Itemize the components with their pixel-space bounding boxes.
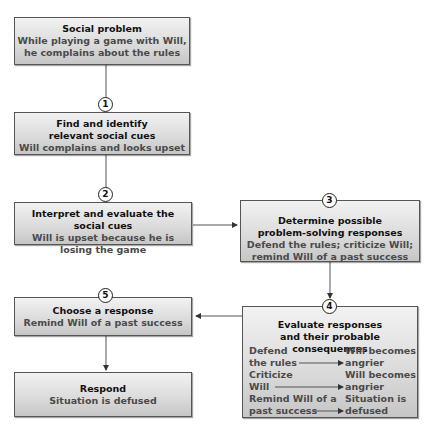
node-title: Choose a response [15, 305, 191, 317]
step-3-box: Determine possible problem-solving respo… [240, 200, 420, 262]
node-body: While playing a game with Will, [15, 35, 189, 47]
respond-box: Respond Situation is defused [14, 372, 192, 417]
social-problem-box: Social problem While playing a game with… [14, 17, 190, 65]
node-body: Defend the rules; criticize Will; [241, 239, 419, 251]
node-title: Respond [15, 383, 191, 395]
step-2-box: Interpret and evaluate the social cues W… [14, 202, 192, 245]
node-title: relevant social cues [15, 130, 189, 142]
step-1-badge: 1 [98, 97, 113, 112]
node-body: remind Will of a past success [241, 251, 419, 263]
node-body: he complains about the rules [15, 47, 189, 59]
pair-arrows [243, 307, 419, 419]
step-3-badge: 3 [322, 193, 337, 208]
step-2-badge: 2 [98, 187, 113, 202]
node-body: Situation is defused [15, 395, 191, 407]
node-body: losing the game [15, 244, 191, 256]
node-title: Determine possible [241, 215, 419, 227]
node-title: Interpret and evaluate the social cues [15, 208, 191, 232]
node-body: Will complains and looks upset [15, 142, 189, 154]
step-1-box: Find and identify relevant social cues W… [14, 112, 190, 155]
node-body: Will is upset because he is [15, 232, 191, 244]
step-4-box: Evaluate responses and their probable co… [242, 306, 418, 418]
node-title: Find and identify [15, 118, 189, 130]
step-5-badge: 5 [98, 288, 113, 303]
node-body: Remind Will of a past success [15, 317, 191, 329]
node-title: problem-solving responses [241, 227, 419, 239]
step-4-badge: 4 [322, 299, 337, 314]
node-title: Social problem [15, 23, 189, 35]
